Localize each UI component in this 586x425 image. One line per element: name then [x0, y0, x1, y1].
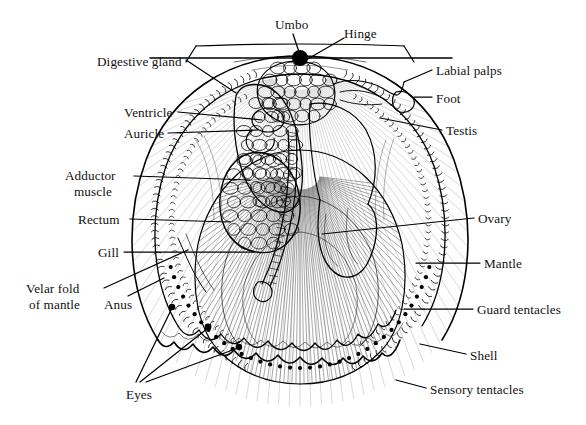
label-velar-fold-1: Velar fold [26, 282, 79, 297]
label-mantle: Mantle [484, 257, 522, 272]
label-rectum: Rectum [78, 213, 120, 228]
leader-rectum [130, 219, 230, 222]
label-adductor-muscle-2: muscle [74, 185, 112, 200]
label-digestive-gland: Digestive gland [97, 55, 182, 70]
eye-dot-3 [236, 344, 242, 350]
label-sensory-tentacles: Sensory tentacles [430, 383, 524, 398]
label-adductor-muscle-1: Adductor [65, 169, 116, 184]
label-guard-tentacles: Guard tentacles [477, 303, 561, 318]
label-ovary: Ovary [478, 212, 511, 227]
leader-shell [420, 344, 466, 354]
leader-anus [128, 278, 164, 296]
label-testis: Testis [446, 124, 477, 139]
label-anus: Anus [104, 298, 132, 313]
leader-eyes-c [146, 348, 238, 382]
leader-sensory-tentacles [396, 380, 426, 388]
label-ventricle: Ventricle [124, 106, 173, 121]
label-velar-fold-2: of mantle [29, 298, 80, 313]
label-shell: Shell [470, 349, 498, 364]
label-foot: Foot [436, 92, 461, 107]
umbo-dot [292, 50, 308, 66]
label-eyes: Eyes [126, 388, 152, 403]
label-hinge: Hinge [344, 27, 377, 42]
leader-labial-palps [404, 70, 432, 82]
eye-dot-2 [205, 324, 212, 331]
label-gill: Gill [98, 246, 119, 261]
figure-canvas: UmboHingeDigestive glandLabial palpsFoot… [0, 0, 586, 425]
leader-eyes-b [140, 328, 208, 382]
leader-lines [104, 34, 480, 388]
label-labial-palps: Labial palps [436, 64, 502, 79]
leader-ovary [322, 218, 474, 234]
label-umbo: Umbo [275, 18, 308, 33]
leader-ventricle [178, 112, 262, 120]
eye-dot-1 [169, 304, 175, 310]
leader-digestive-gland [186, 60, 236, 93]
label-auricle: Auricle [124, 127, 164, 142]
